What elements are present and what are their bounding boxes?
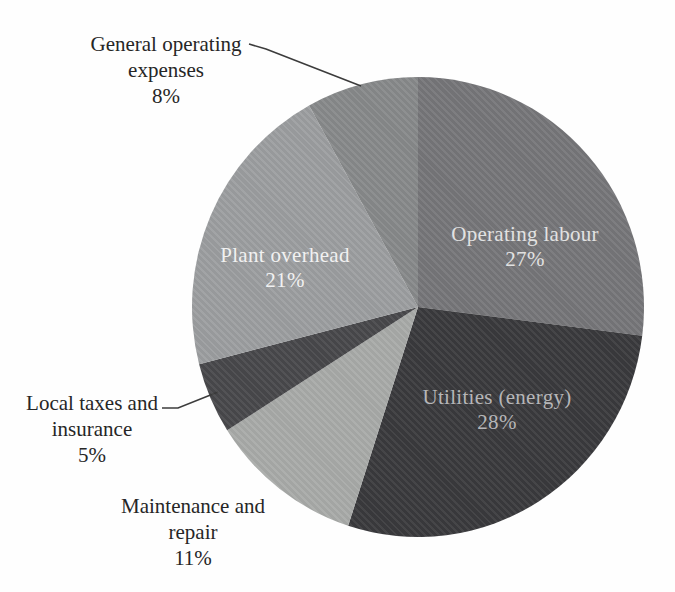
slice-percent: 11% — [121, 545, 265, 571]
slice-percent: 21% — [220, 268, 350, 293]
slice-name: Operating labour — [451, 222, 599, 247]
slice-percent: 5% — [26, 442, 158, 468]
slice-name-line2: expenses — [90, 57, 241, 83]
slice-label-maintenance-repair: Maintenance and repair 11% — [121, 493, 265, 571]
slice-percent: 8% — [90, 83, 241, 109]
slice-label-utilities-energy: Utilities (energy) 28% — [422, 385, 571, 435]
slice-label-general-operating-expenses: General operating expenses 8% — [90, 31, 241, 109]
slice-label-operating-labour: Operating labour 27% — [451, 222, 599, 272]
pie-chart-figure: Operating labour 27% Utilities (energy) … — [0, 0, 675, 592]
slice-percent: 27% — [451, 247, 599, 272]
pie-slice-operating-labour — [418, 77, 644, 336]
slice-name-line1: General operating — [90, 31, 241, 57]
leader-line-general-operating-expenses — [249, 44, 361, 86]
slice-name-line1: Local taxes and — [26, 390, 158, 416]
slice-name-line1: Maintenance and — [121, 493, 265, 519]
slice-name: Utilities (energy) — [422, 385, 571, 410]
slice-name-line2: insurance — [26, 416, 158, 442]
slice-name: Plant overhead — [220, 243, 350, 268]
slice-name-line2: repair — [121, 519, 265, 545]
slice-label-plant-overhead: Plant overhead 21% — [220, 243, 350, 293]
pie-slices — [192, 77, 644, 537]
slice-percent: 28% — [422, 410, 571, 435]
slice-label-local-taxes-insurance: Local taxes and insurance 5% — [26, 390, 158, 468]
